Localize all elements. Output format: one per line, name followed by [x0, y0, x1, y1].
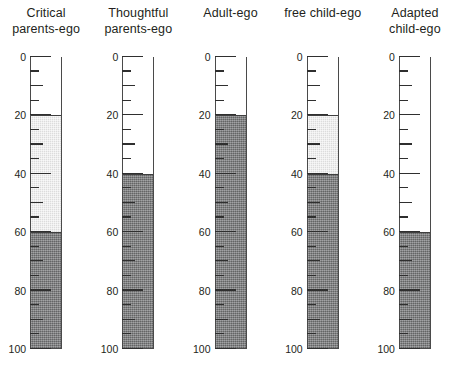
panel-title: Adapted child-ego — [369, 6, 461, 37]
axis-tick-label: 40 — [14, 169, 26, 180]
axis-tick-minor — [399, 333, 408, 334]
axis-tick-major — [30, 231, 51, 232]
axis-tick-major — [215, 56, 236, 57]
axis-tick-label: 80 — [14, 285, 26, 296]
axis-tick-minor — [122, 333, 131, 334]
axis-tick-mid — [122, 143, 135, 144]
axis-tick-major — [399, 114, 420, 115]
axis-tick-minor — [122, 70, 131, 71]
axis-tick-minor — [30, 129, 39, 130]
axis-tick-major — [399, 348, 420, 349]
axis-tick-major — [122, 348, 143, 349]
panel-title: free child-ego — [277, 6, 369, 22]
axis-tick-mid — [307, 202, 320, 203]
axis-tick-label: 60 — [14, 227, 26, 238]
axis-tick-major — [30, 56, 51, 57]
gauge-panel-adult-ego: Adult-ego 100806040200 — [184, 0, 276, 366]
axis-tick-mid — [122, 260, 135, 261]
axis-tick-label: 20 — [291, 110, 303, 121]
axis-tick-major — [307, 289, 328, 290]
axis-tick-minor — [122, 100, 131, 101]
axis-tick-minor — [399, 187, 408, 188]
axis-tick-mid — [122, 85, 135, 86]
axis-tick-mid — [399, 143, 412, 144]
axis-tick-label: 40 — [199, 169, 211, 180]
axis-tick-major — [215, 114, 236, 115]
axis-tick-label: 100 — [101, 344, 119, 355]
axis-tick-major — [307, 56, 328, 57]
axis-tick-minor — [307, 216, 316, 217]
axis-tick-minor — [215, 129, 224, 130]
axis-tick-minor — [122, 216, 131, 217]
axis-tick-minor — [307, 246, 316, 247]
axis-tick-label: 60 — [199, 227, 211, 238]
axis-tick-minor — [307, 129, 316, 130]
axis-tick-major — [215, 289, 236, 290]
axis-tick-mid — [30, 202, 43, 203]
axis-tick-minor — [122, 187, 131, 188]
axis-tick-major — [307, 114, 328, 115]
axis-tick-label: 80 — [199, 285, 211, 296]
axis-tick-label: 100 — [9, 344, 27, 355]
axis-tick-minor — [215, 333, 224, 334]
gauge-chart: Critical parents-ego 100806040200 Though… — [0, 0, 461, 366]
axis-tick-major — [399, 173, 420, 174]
gauge-column: 100806040200 — [215, 57, 247, 349]
axis-tick-mid — [307, 319, 320, 320]
axis-tick-minor — [122, 246, 131, 247]
axis-tick-major — [30, 289, 51, 290]
axis-tick-minor — [30, 304, 39, 305]
panel-title: Thoughtful parents-ego — [92, 6, 184, 37]
axis-tick-minor — [30, 333, 39, 334]
axis-tick-mid — [30, 319, 43, 320]
axis-tick-minor — [307, 304, 316, 305]
axis-tick-minor — [307, 158, 316, 159]
gauge-fill-primary — [308, 174, 338, 349]
axis-tick-mid — [30, 260, 43, 261]
axis-tick-minor — [399, 275, 408, 276]
gauge-panel-row: Critical parents-ego 100806040200 Though… — [0, 0, 461, 366]
axis-tick-mid — [122, 319, 135, 320]
axis-tick-minor — [399, 158, 408, 159]
axis-tick-label: 100 — [193, 344, 211, 355]
axis-tick-label: 20 — [383, 110, 395, 121]
gauge-column: 100806040200 — [30, 57, 62, 349]
axis-tick-label: 80 — [383, 285, 395, 296]
axis-tick-minor — [122, 275, 131, 276]
panel-title: Critical parents-ego — [0, 6, 92, 37]
axis-tick-minor — [399, 129, 408, 130]
axis-tick-mid — [399, 319, 412, 320]
axis-tick-minor — [215, 304, 224, 305]
axis-tick-major — [399, 231, 420, 232]
axis-tick-major — [399, 56, 420, 57]
axis-tick-label: 20 — [14, 110, 26, 121]
axis-tick-major — [122, 173, 143, 174]
axis-tick-label: 20 — [199, 110, 211, 121]
gauge-column: 100806040200 — [122, 57, 154, 349]
gauge-column: 100806040200 — [399, 57, 431, 349]
axis-tick-label: 40 — [383, 169, 395, 180]
axis-tick-minor — [215, 275, 224, 276]
axis-tick-minor — [122, 304, 131, 305]
axis-tick-minor — [215, 216, 224, 217]
axis-tick-minor — [307, 187, 316, 188]
axis-tick-minor — [30, 246, 39, 247]
axis-tick-minor — [122, 158, 131, 159]
axis-tick-label: 40 — [107, 169, 119, 180]
axis-tick-label: 0 — [297, 52, 303, 63]
axis-tick-minor — [30, 100, 39, 101]
axis-tick-minor — [30, 275, 39, 276]
axis-tick-major — [30, 114, 51, 115]
axis-tick-mid — [122, 202, 135, 203]
axis-tick-mid — [399, 85, 412, 86]
axis-tick-major — [307, 348, 328, 349]
gauge-panel-adapted-child-ego: Adapted child-ego 100806040200 — [369, 0, 461, 366]
axis-tick-minor — [215, 70, 224, 71]
axis-tick-mid — [399, 260, 412, 261]
axis-tick-label: 20 — [107, 110, 119, 121]
axis-tick-major — [122, 289, 143, 290]
axis-tick-label: 0 — [205, 52, 211, 63]
axis-tick-label: 0 — [389, 52, 395, 63]
axis-tick-label: 60 — [291, 227, 303, 238]
gauge-panel-thoughtful-parents-ego: Thoughtful parents-ego 100806040200 — [92, 0, 184, 366]
